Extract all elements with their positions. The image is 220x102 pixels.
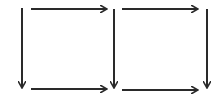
diagram-canvas [0,0,220,102]
arrow-diagram [0,0,220,102]
